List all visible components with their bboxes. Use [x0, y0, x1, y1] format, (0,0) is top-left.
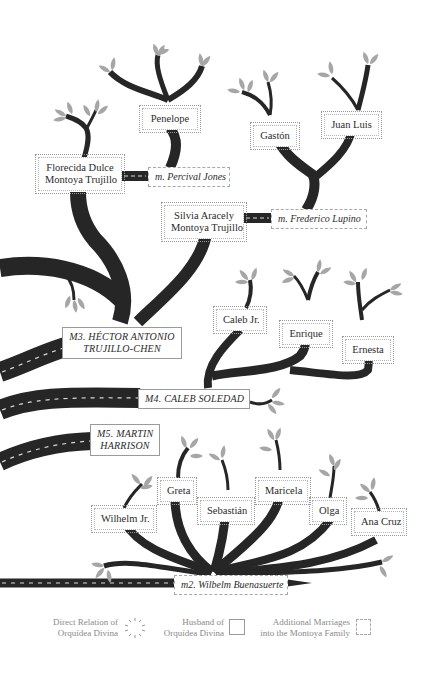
node-ernesta: Ernesta	[345, 339, 391, 361]
node-husband-m3: m3. HÉCTOR ANTONIO TRUJILLO-CHEN	[62, 327, 182, 359]
node-sebastian: Sebastián	[200, 500, 252, 522]
node-ana-cruz: Ana Cruz	[354, 511, 404, 533]
node-greta: Greta	[160, 480, 194, 502]
node-frederico-lupino: m. Frederico Lupino	[271, 209, 367, 229]
legend-husband-line1: Husband of	[158, 617, 224, 628]
node-husband-m3-line2: TRUJILLO-CHEN	[69, 343, 175, 355]
node-juan-luis: Juan Luis	[324, 114, 379, 136]
node-husband-m2: m2. Wilbelm Buenasuerte	[174, 575, 288, 595]
node-percival-jones: m. Percival Jones	[148, 167, 230, 187]
node-florecida: Florecida Dulce Montoya Trujillo	[38, 157, 122, 191]
legend-direct-label: Direct Relation of Orquídea Divina	[48, 617, 118, 639]
legend-additional-line2: into the Montoya Family	[255, 628, 350, 639]
node-silvia-line1: Silvia Aracely	[171, 210, 237, 222]
legend-direct-line2: Orquídea Divina	[48, 628, 118, 639]
node-enrique: Enrique	[282, 323, 330, 345]
node-husband-m5-line1: m5. MARTIN	[97, 428, 153, 440]
node-husband-m3-line1: m3. HÉCTOR ANTONIO	[69, 331, 175, 343]
road-m5	[0, 441, 92, 462]
node-husband-m4: m4. CALEB SOLEDAD	[138, 389, 250, 409]
legend-direct-line1: Direct Relation of	[48, 617, 118, 628]
node-gaston: Gastón	[253, 125, 297, 147]
connector-percival	[122, 171, 148, 181]
legend-additional-label: Additional Marriages into the Montoya Fa…	[255, 617, 350, 639]
node-wilhelm-jr: Wilhelm Jr.	[94, 508, 154, 530]
legend-direct-symbol-icon	[125, 618, 145, 638]
node-silvia: Silvia Aracely Montoya Trujillo	[164, 205, 244, 239]
road-m4	[0, 397, 140, 410]
node-florecida-line2: Montoya Trujillo	[45, 174, 115, 186]
legend-husband-label: Husband of Orquídea Divina	[158, 617, 224, 639]
legend-husband-line2: Orquídea Divina	[158, 628, 224, 639]
node-penelope: Penelope	[142, 108, 198, 130]
node-husband-m5-line2: HARRISON	[97, 440, 153, 452]
node-olga: Olga	[312, 500, 344, 522]
node-maricela: Maricela	[258, 480, 308, 502]
node-florecida-line1: Florecida Dulce	[45, 162, 115, 174]
branch-florecida	[53, 99, 110, 158]
branch-penelope	[98, 43, 212, 168]
node-husband-m5: m5. MARTIN HARRISON	[90, 424, 160, 456]
legend-additional-symbol-icon	[356, 619, 371, 635]
legend-husband-symbol-icon	[229, 619, 245, 635]
connector-lupino	[244, 213, 271, 223]
node-silvia-line2: Montoya Trujillo	[171, 222, 237, 234]
node-caleb-jr: Caleb Jr.	[216, 309, 264, 331]
legend-additional-line1: Additional Marriages	[255, 617, 350, 628]
